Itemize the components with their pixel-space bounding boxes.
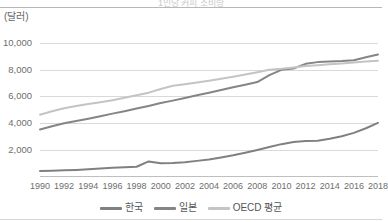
chart-legend: 한국일본OECD 평균 xyxy=(0,200,382,216)
x-tick-label: 2018 xyxy=(368,180,388,192)
top-divider xyxy=(0,7,382,8)
x-tick-label: 2002 xyxy=(175,180,195,192)
legend-item[interactable]: 한국 xyxy=(100,202,143,214)
legend-label: OECD 평균 xyxy=(233,202,283,214)
x-tick-label: 2000 xyxy=(151,180,171,192)
x-tick-label: 1990 xyxy=(30,180,50,192)
x-tick-label: 2016 xyxy=(344,180,364,192)
legend-label: 한국 xyxy=(125,202,143,214)
legend-swatch-icon xyxy=(154,207,176,210)
legend-swatch-icon xyxy=(208,207,230,210)
y-tick-label: 6,000 xyxy=(0,91,32,101)
x-axis-ticks: 1990199219941996199820002002200420062008… xyxy=(40,180,378,194)
legend-label: 일본 xyxy=(179,202,197,214)
y-axis-unit-label: (달러) xyxy=(4,11,29,23)
x-tick-label: 2012 xyxy=(296,180,316,192)
x-tick-label: 1996 xyxy=(102,180,122,192)
x-axis-line xyxy=(40,176,378,177)
x-tick-label: 1998 xyxy=(127,180,147,192)
x-tick-label: 1994 xyxy=(78,180,98,192)
chart-title-cutoff: 1인당 커피 소비량 xyxy=(0,0,382,7)
x-tick-label: 2008 xyxy=(247,180,267,192)
x-tick-label: 2006 xyxy=(223,180,243,192)
x-tick-label: 2010 xyxy=(271,180,291,192)
legend-item[interactable]: OECD 평균 xyxy=(208,202,283,214)
y-tick-label: 8,000 xyxy=(0,65,32,75)
y-tick-label: 10,000 xyxy=(0,38,32,48)
y-tick-label: 4,000 xyxy=(0,118,32,128)
x-tick-label: 2014 xyxy=(320,180,340,192)
legend-item[interactable]: 일본 xyxy=(154,202,197,214)
legend-swatch-icon xyxy=(100,207,122,210)
x-tick-label: 1992 xyxy=(54,180,74,192)
y-tick-label: 2,000 xyxy=(0,145,32,155)
x-tick-label: 2004 xyxy=(199,180,219,192)
bottom-divider xyxy=(0,219,382,220)
y-axis-ticks: 10,0008,0006,0004,0002,000 xyxy=(40,30,378,176)
